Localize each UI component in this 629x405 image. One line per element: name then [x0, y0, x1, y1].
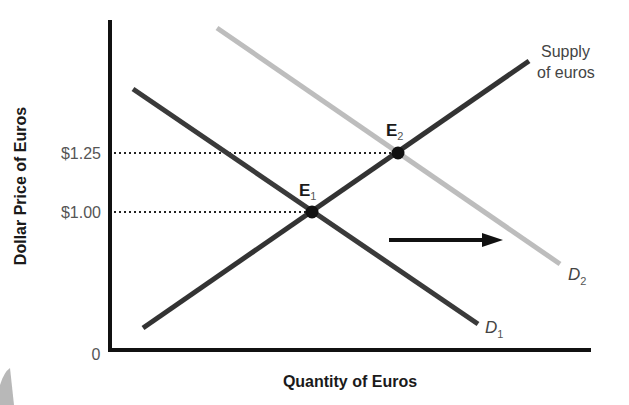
d1-label: D1: [485, 318, 503, 340]
e2-label-sub: 2: [397, 130, 403, 142]
origin-label: 0: [92, 346, 101, 363]
equilibrium-point-e1: [306, 206, 319, 219]
y-tick-100: $1.00: [61, 204, 101, 221]
e1-label-sub: 1: [310, 190, 316, 202]
y-tick-125: $1.25: [61, 145, 101, 162]
y-axis-title: Dollar Price of Euros: [12, 107, 29, 265]
e2-label: E2: [386, 121, 403, 142]
d1-label-sub: 1: [497, 328, 503, 340]
e2-label-main: E: [386, 121, 397, 140]
page-curl-decoration: [0, 368, 14, 405]
d1-label-main: D: [485, 318, 497, 337]
supply-label-line1: Supply: [541, 43, 590, 60]
d2-label: D2: [568, 265, 586, 287]
d2-label-sub: 2: [580, 275, 586, 287]
shift-arrow-icon: [482, 233, 503, 247]
d2-label-main: D: [568, 265, 580, 284]
supply-curve: [143, 61, 529, 328]
x-axis-title: Quantity of Euros: [283, 373, 417, 390]
e1-label: E1: [299, 181, 316, 202]
demand-curve-d2: [217, 28, 560, 264]
supply-demand-chart: $1.25 $1.00 0 Dollar Price of Euros Quan…: [0, 0, 629, 405]
equilibrium-point-e2: [392, 147, 405, 160]
demand-curve-d1: [133, 89, 478, 324]
supply-label-line2: of euros: [537, 64, 595, 81]
e1-label-main: E: [299, 181, 310, 200]
